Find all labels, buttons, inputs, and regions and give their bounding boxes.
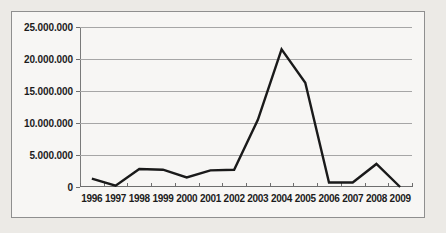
- x-axis-label: 2006: [318, 193, 339, 204]
- y-axis-label: 20.000.000: [24, 54, 73, 65]
- x-axis-label: 1998: [129, 193, 150, 204]
- y-axis-label: 5.000.000: [29, 150, 73, 161]
- x-axis-label: 1997: [105, 193, 126, 204]
- grid-box: 05.000.00010.000.00015.000.00020.000.000…: [80, 27, 412, 187]
- plot-area: 05.000.00010.000.00015.000.00020.000.000…: [80, 16, 412, 198]
- x-axis-tick: [412, 183, 413, 187]
- x-axis-label: 2007: [342, 193, 363, 204]
- x-axis-label: 1996: [81, 193, 102, 204]
- y-axis-tick: [76, 187, 80, 188]
- x-axis-label: 2005: [295, 193, 316, 204]
- chart-page: 05.000.00010.000.00015.000.00020.000.000…: [0, 0, 446, 233]
- data-series-line: [80, 27, 412, 187]
- chart-frame: 05.000.00010.000.00015.000.00020.000.000…: [11, 11, 425, 218]
- x-axis-label: 2001: [200, 193, 221, 204]
- x-axis-label: 2002: [224, 193, 245, 204]
- series-polyline: [92, 49, 400, 187]
- y-axis-label: 0: [68, 182, 73, 193]
- x-axis-label: 1999: [152, 193, 173, 204]
- x-axis-label: 2008: [366, 193, 387, 204]
- y-axis-label: 10.000.000: [24, 118, 73, 129]
- x-axis-label: 2003: [247, 193, 268, 204]
- x-axis-label: 2000: [176, 193, 197, 204]
- y-axis-label: 25.000.000: [24, 22, 73, 33]
- y-axis-label: 15.000.000: [24, 86, 73, 97]
- x-axis-label: 2009: [390, 193, 411, 204]
- x-axis-label: 2004: [271, 193, 292, 204]
